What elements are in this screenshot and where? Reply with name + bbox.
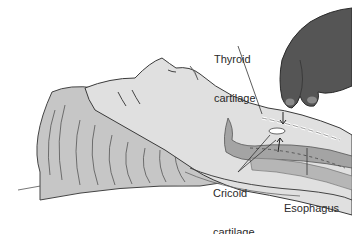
label-line: Thyroid	[214, 53, 256, 66]
label-line: cartilage	[214, 92, 256, 105]
label-esophagus: Esophagus	[284, 176, 339, 234]
fingernail	[286, 99, 295, 106]
label-thyroid-cartilage: Thyroid cartilage	[214, 27, 256, 131]
label-line: Cricoid	[213, 187, 255, 200]
label-cricoid-cartilage: Cricoid cartilage	[213, 161, 255, 234]
fingernail	[307, 97, 317, 104]
illustration: Thyroid cartilage Cricoid cartilage Esop…	[0, 0, 352, 234]
hand	[280, 8, 352, 108]
label-line: Esophagus	[284, 202, 339, 215]
label-line: cartilage	[213, 226, 255, 234]
cricoid-highlight	[269, 128, 285, 134]
